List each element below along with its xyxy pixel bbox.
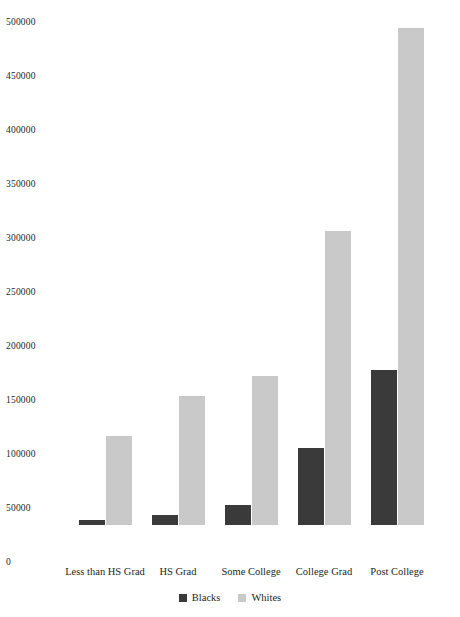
legend-label: Whites <box>251 592 281 604</box>
chart-legend: BlacksWhites <box>0 592 460 604</box>
bar-blacks-0[interactable] <box>79 520 105 525</box>
bar-whites-4[interactable] <box>398 28 424 525</box>
legend-label: Blacks <box>192 592 221 604</box>
bar-whites-0[interactable] <box>106 436 132 525</box>
plot-area: 5000004500004000003500003000002500002000… <box>0 0 460 580</box>
x-axis-category-labels: Less than HS GradHS GradSome CollegeColl… <box>0 565 460 589</box>
bar-blacks-1[interactable] <box>152 515 178 525</box>
bar-blacks-3[interactable] <box>298 448 324 525</box>
bar-whites-3[interactable] <box>325 231 351 525</box>
legend-swatch-icon <box>179 594 187 602</box>
bars-layer <box>0 0 460 580</box>
bar-chart: 5000004500004000003500003000002500002000… <box>0 0 460 617</box>
bar-whites-1[interactable] <box>179 396 205 525</box>
legend-item-whites[interactable]: Whites <box>238 592 281 604</box>
bar-whites-2[interactable] <box>252 376 278 525</box>
x-axis-label-4: Post College <box>322 565 460 579</box>
legend-swatch-icon <box>238 594 246 602</box>
bar-blacks-2[interactable] <box>225 505 251 525</box>
bar-blacks-4[interactable] <box>371 370 397 525</box>
legend-item-blacks[interactable]: Blacks <box>179 592 221 604</box>
